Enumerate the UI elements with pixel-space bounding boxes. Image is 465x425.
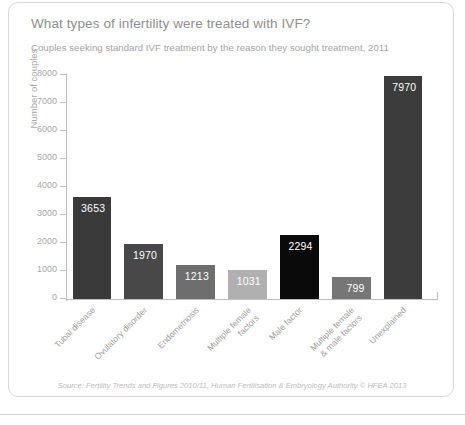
bar-value-label: 1970 [133,249,157,261]
y-axis-tick-label: 4000 [0,180,57,190]
bar-value-label: 799 [346,282,364,294]
x-axis-end-tick [437,292,438,300]
bar[interactable]: 2294 [280,235,319,299]
y-axis-tick-mark [60,214,66,215]
bar[interactable]: 799 [332,277,371,299]
bar-value-label: 1031 [237,275,261,287]
bar-value-label: 7970 [392,81,416,93]
y-axis-tick-mark [60,270,66,271]
y-axis-tick-label: 5000 [0,152,57,162]
y-axis-tick-label: 6000 [0,124,57,134]
chart-card: What types of infertility were treated w… [8,2,454,397]
y-axis-tick-mark [60,298,66,299]
bar-value-label: 3653 [81,202,105,214]
bar[interactable]: 7970 [384,76,423,299]
x-axis-line [66,299,438,300]
y-axis-tick-mark [60,102,66,103]
y-axis-tick-label: 8000 [0,68,57,78]
chart-subtitle: Couples seeking standard IVF treatment b… [31,42,389,53]
chart-title: What types of infertility were treated w… [31,16,310,31]
bar[interactable]: 1213 [176,265,215,299]
page-divider [0,414,465,415]
y-axis-tick-label: 0 [0,292,57,302]
y-axis-tick-label: 3000 [0,208,57,218]
bar-value-label: 1213 [185,270,209,282]
bar[interactable]: 1970 [124,244,163,299]
y-axis-tick-mark [60,74,66,75]
y-axis-tick-mark [60,186,66,187]
plot-area: 010002000300040005000600070008000 365319… [66,75,429,299]
bar[interactable]: 1031 [228,270,267,299]
y-axis-tick-label: 1000 [0,264,57,274]
y-axis-tick-mark [60,242,66,243]
source-note: Source: Fertility Trends and Figures 201… [9,381,455,390]
bar[interactable]: 3653 [73,197,112,299]
bar-value-label: 2294 [288,240,312,252]
y-axis-tick-label: 2000 [0,236,57,246]
y-axis-tick-mark [60,158,66,159]
y-axis-tick-label: 7000 [0,96,57,106]
y-axis-tick-mark [60,130,66,131]
